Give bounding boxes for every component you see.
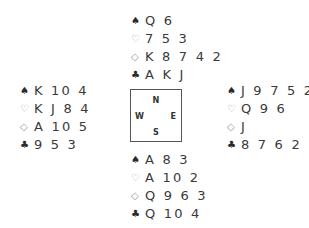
- west-hearts: K J 8 4: [34, 100, 91, 118]
- diamond-icon: ◇: [227, 118, 239, 136]
- north-clubs: A K J: [145, 66, 186, 84]
- compass-box: N W E S: [130, 89, 182, 142]
- east-hearts-row: ♡Q 9 6: [227, 100, 309, 118]
- north-hearts: 7 5 3: [145, 30, 189, 48]
- south-hearts: A 10 2: [145, 169, 200, 187]
- diamond-icon: ◇: [131, 187, 143, 205]
- south-spades-row: ♠A 8 3: [131, 151, 208, 169]
- south-hand: ♠A 8 3 ♡A 10 2 ◇Q 9 6 3 ♣Q 10 4: [131, 151, 208, 223]
- north-diamonds: K 8 7 4 2: [145, 48, 223, 66]
- east-hand: ♠J 9 7 5 2 ♡Q 9 6 ◇J ♣8 7 6 2: [227, 82, 309, 154]
- club-icon: ♣: [20, 136, 32, 154]
- east-hearts: Q 9 6: [241, 100, 287, 118]
- east-spades: J 9 7 5 2: [241, 82, 309, 100]
- compass-north: N: [131, 95, 181, 105]
- club-icon: ♣: [227, 136, 239, 154]
- west-diamonds-row: ◇A 10 5: [20, 118, 91, 136]
- south-spades: A 8 3: [145, 151, 190, 169]
- east-spades-row: ♠J 9 7 5 2: [227, 82, 309, 100]
- spade-icon: ♠: [131, 12, 143, 30]
- north-clubs-row: ♣A K J: [131, 66, 223, 84]
- heart-icon: ♡: [227, 100, 239, 118]
- west-diamonds: A 10 5: [34, 118, 89, 136]
- east-diamonds: J: [241, 118, 247, 136]
- north-hand: ♠Q 6 ♡7 5 3 ◇K 8 7 4 2 ♣A K J: [131, 12, 223, 84]
- east-clubs: 8 7 6 2: [241, 136, 302, 154]
- west-clubs: 9 5 3: [34, 136, 78, 154]
- east-diamonds-row: ◇J: [227, 118, 309, 136]
- west-hearts-row: ♡K J 8 4: [20, 100, 91, 118]
- south-diamonds-row: ◇Q 9 6 3: [131, 187, 208, 205]
- compass-east: E: [170, 111, 176, 121]
- heart-icon: ♡: [20, 100, 32, 118]
- club-icon: ♣: [131, 66, 143, 84]
- heart-icon: ♡: [131, 30, 143, 48]
- south-hearts-row: ♡A 10 2: [131, 169, 208, 187]
- compass-south: S: [131, 127, 181, 137]
- west-clubs-row: ♣9 5 3: [20, 136, 91, 154]
- north-hearts-row: ♡7 5 3: [131, 30, 223, 48]
- spade-icon: ♠: [227, 82, 239, 100]
- north-spades: Q 6: [145, 12, 174, 30]
- south-clubs-row: ♣Q 10 4: [131, 205, 208, 223]
- heart-icon: ♡: [131, 169, 143, 187]
- east-clubs-row: ♣8 7 6 2: [227, 136, 309, 154]
- diamond-icon: ◇: [20, 118, 32, 136]
- south-clubs: Q 10 4: [145, 205, 202, 223]
- compass-west: W: [135, 111, 144, 121]
- spade-icon: ♠: [20, 82, 32, 100]
- club-icon: ♣: [131, 205, 143, 223]
- south-diamonds: Q 9 6 3: [145, 187, 208, 205]
- west-hand: ♠K 10 4 ♡K J 8 4 ◇A 10 5 ♣9 5 3: [20, 82, 91, 154]
- west-spades-row: ♠K 10 4: [20, 82, 91, 100]
- west-spades: K 10 4: [34, 82, 89, 100]
- north-spades-row: ♠Q 6: [131, 12, 223, 30]
- spade-icon: ♠: [131, 151, 143, 169]
- diamond-icon: ◇: [131, 48, 143, 66]
- north-diamonds-row: ◇K 8 7 4 2: [131, 48, 223, 66]
